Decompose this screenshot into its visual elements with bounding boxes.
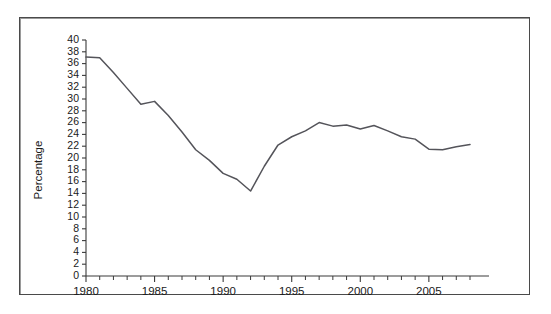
y-tick-label: 2 bbox=[73, 257, 79, 269]
y-axis-tick-labels: 0246810121416182022242628303234363840 bbox=[67, 33, 79, 281]
y-tick-label: 30 bbox=[67, 92, 79, 104]
y-tick-label: 34 bbox=[67, 68, 79, 80]
y-tick-label: 18 bbox=[67, 163, 79, 175]
y-tick-label: 12 bbox=[67, 198, 79, 210]
x-tick-label: 2005 bbox=[416, 285, 442, 296]
y-tick-label: 6 bbox=[73, 233, 79, 245]
y-axis-ticks bbox=[82, 40, 86, 276]
y-tick-label: 36 bbox=[67, 56, 79, 68]
y-tick-label: 32 bbox=[67, 80, 79, 92]
y-tick-label: 4 bbox=[73, 245, 79, 257]
data-series bbox=[86, 57, 470, 191]
y-tick-label: 14 bbox=[67, 186, 79, 198]
chart-plot-area: 0246810121416182022242628303234363840 19… bbox=[20, 18, 531, 296]
y-tick-label: 28 bbox=[67, 104, 79, 116]
line-chart-svg: 0246810121416182022242628303234363840 19… bbox=[20, 18, 531, 296]
x-tick-label: 1985 bbox=[142, 285, 168, 296]
x-axis: 198019851990199520002005 bbox=[73, 276, 489, 296]
x-tick-label: 1995 bbox=[279, 285, 305, 296]
y-axis: 0246810121416182022242628303234363840 bbox=[67, 33, 86, 281]
y-tick-label: 10 bbox=[67, 210, 79, 222]
y-tick-label: 40 bbox=[67, 33, 79, 45]
y-tick-label: 20 bbox=[67, 151, 79, 163]
y-tick-label: 16 bbox=[67, 174, 79, 186]
x-axis-tick-labels: 198019851990199520002005 bbox=[73, 285, 441, 296]
chart-frame: 0246810121416182022242628303234363840 19… bbox=[19, 17, 530, 295]
percentage-line bbox=[86, 57, 470, 191]
y-tick-label: 0 bbox=[73, 269, 79, 281]
y-tick-label: 22 bbox=[67, 139, 79, 151]
y-axis-title: Percentage bbox=[32, 141, 44, 200]
y-tick-label: 24 bbox=[67, 127, 79, 139]
x-tick-label: 1990 bbox=[210, 285, 236, 296]
y-tick-label: 26 bbox=[67, 115, 79, 127]
x-tick-label: 2000 bbox=[347, 285, 373, 296]
x-axis-ticks bbox=[86, 276, 470, 282]
y-tick-label: 8 bbox=[73, 222, 79, 234]
x-tick-label: 1980 bbox=[73, 285, 99, 296]
y-tick-label: 38 bbox=[67, 45, 79, 57]
